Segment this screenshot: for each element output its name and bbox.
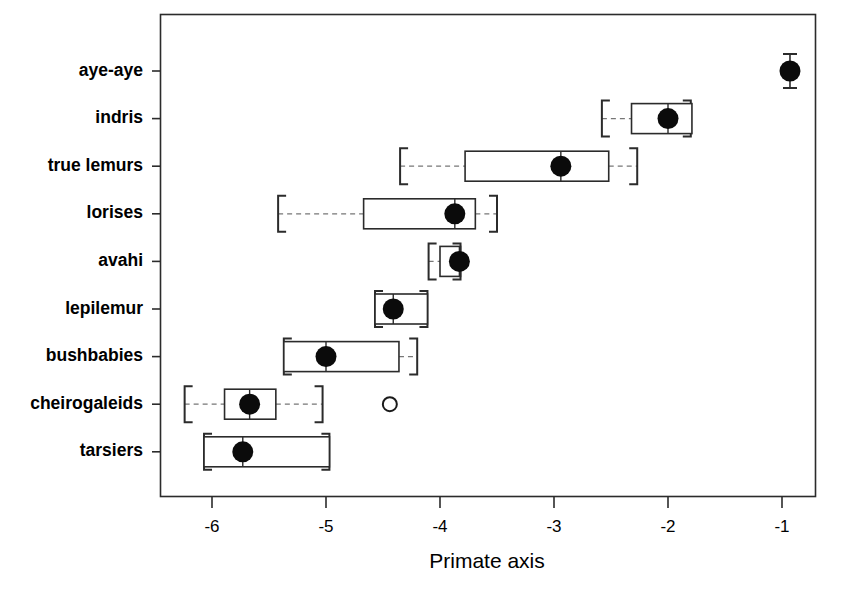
y-axis-label-avahi: avahi [98,250,143,270]
median-point [658,108,679,129]
boxplot-row-bushbabies [284,339,417,375]
boxplot-svg: aye-ayeindristrue lemurslorisesavahilepi… [0,0,842,599]
x-tick-label: -3 [546,517,561,536]
boxplot-row-avahi [429,243,470,279]
median-point [316,346,337,367]
median-point [449,251,470,272]
median-point [239,394,260,415]
plot-frame [161,15,816,497]
boxplot-row-tarsiers [204,434,329,470]
median-point [779,61,800,82]
x-tick-label: -1 [774,517,789,536]
boxplot-row-lorises [278,196,497,232]
boxplot-row-lepilemur [375,291,427,327]
y-axis-label-aye-aye: aye-aye [79,60,143,80]
x-tick-label: -6 [204,517,219,536]
boxplot-row-cheirogaleids [185,386,397,422]
y-axis-label-lepilemur: lepilemur [65,298,143,318]
y-axis-label-tarsiers: tarsiers [80,440,144,460]
x-tick-label: -5 [318,517,333,536]
boxplot-row-true-lemurs [400,148,637,184]
box [204,437,329,467]
x-tick-label: -4 [432,517,447,536]
median-point [383,299,404,320]
boxplot-row-indris [602,101,692,137]
y-axis-label-lorises: lorises [87,202,144,222]
x-axis-title: Primate axis [429,549,545,572]
box [465,151,609,181]
box-series [185,54,801,470]
primate-axis-boxplot-figure: aye-ayeindristrue lemurslorisesavahilepi… [0,0,842,599]
boxplot-row-aye-aye [779,54,800,88]
x-tick-label: -2 [660,517,675,536]
x-axis-tick-labels: -6-5-4-3-2-1 [204,517,789,536]
y-axis-labels: aye-ayeindristrue lemurslorisesavahilepi… [30,60,143,461]
y-axis-ticks [152,71,160,452]
y-axis-label-cheirogaleids: cheirogaleids [30,393,143,413]
median-point [232,441,253,462]
outlier-point [383,397,397,411]
y-axis-label-bushbabies: bushbabies [46,345,144,365]
x-axis-ticks [212,496,782,508]
box [284,342,399,372]
y-axis-label-true-lemurs: true lemurs [48,155,144,175]
y-axis-label-indris: indris [95,107,143,127]
median-point [550,156,571,177]
median-point [444,203,465,224]
